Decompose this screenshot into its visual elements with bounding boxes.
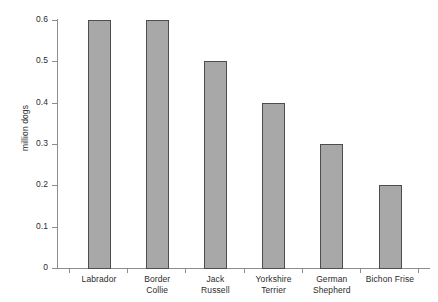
x-tick-label: Jack Russell: [186, 274, 244, 295]
bar: [146, 20, 169, 269]
y-tick-label: 0.3: [0, 139, 48, 148]
x-tick-mark: [302, 269, 303, 273]
y-tick-label-wrap: 0.6: [0, 15, 48, 25]
y-tick-mark: [52, 20, 57, 21]
x-tick-label: Bichon Frise: [361, 274, 419, 285]
y-tick-label: 0.5: [0, 56, 48, 65]
x-tick-label: Labrador: [70, 274, 128, 285]
x-tick-mark: [127, 269, 128, 273]
x-tick-mark: [244, 269, 245, 273]
y-tick-label-wrap: 0.5: [0, 56, 48, 66]
y-tick-label-wrap: 0.2: [0, 180, 48, 190]
y-tick-label-wrap: 0.4: [0, 98, 48, 108]
y-tick-label: 0.2: [0, 180, 48, 189]
y-tick-mark: [52, 185, 57, 186]
y-tick-mark: [52, 268, 57, 269]
x-tick-label: Yorkshire Terrier: [245, 274, 303, 295]
bar: [320, 144, 343, 269]
y-tick-mark: [52, 227, 57, 228]
x-tick-label: Border Collie: [128, 274, 186, 295]
y-tick-label: 0.1: [0, 222, 48, 231]
y-axis-line: [57, 19, 58, 269]
bar: [88, 20, 111, 269]
cropped-title-artifact: [120, 0, 200, 4]
bar: [204, 61, 227, 269]
y-tick-mark: [52, 144, 57, 145]
x-tick-label: German Shepherd: [303, 274, 361, 295]
bar: [262, 103, 285, 269]
bar-chart: million dogs 00.10.20.30.40.50.6 Labrado…: [0, 0, 438, 302]
y-tick-mark: [52, 103, 57, 104]
y-tick-mark: [52, 61, 57, 62]
x-tick-mark: [360, 269, 361, 273]
y-tick-label-wrap: 0.3: [0, 139, 48, 149]
bar: [379, 185, 402, 269]
x-tick-mark: [418, 269, 419, 273]
y-tick-label: 0: [0, 263, 48, 272]
y-tick-label-wrap: 0.1: [0, 222, 48, 232]
y-tick-label: 0.4: [0, 98, 48, 107]
x-tick-mark: [69, 269, 70, 273]
y-tick-label: 0.6: [0, 15, 48, 24]
x-tick-mark: [185, 269, 186, 273]
y-tick-label-wrap: 0: [0, 263, 48, 273]
